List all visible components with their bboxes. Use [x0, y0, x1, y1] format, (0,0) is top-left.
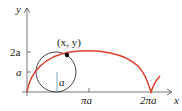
- x-axis-label: x: [173, 94, 179, 106]
- y-tick-label-a: a: [16, 66, 22, 78]
- y-axis-label: y: [15, 3, 21, 15]
- point-label: (x, y): [57, 36, 81, 49]
- x-tick-label-pi-a: πa: [81, 94, 93, 106]
- point-xy: [65, 53, 69, 57]
- y-tick-label-2a: 2a: [10, 46, 21, 58]
- rolling-circle: [36, 52, 76, 92]
- x-tick-label-2pi-a: 2πa: [140, 94, 157, 106]
- cycloid-diagram: y x 2a a πa 2πa (x, y) a: [0, 0, 182, 111]
- cycloid-curve: [27, 51, 160, 92]
- radius-label: a: [59, 76, 65, 88]
